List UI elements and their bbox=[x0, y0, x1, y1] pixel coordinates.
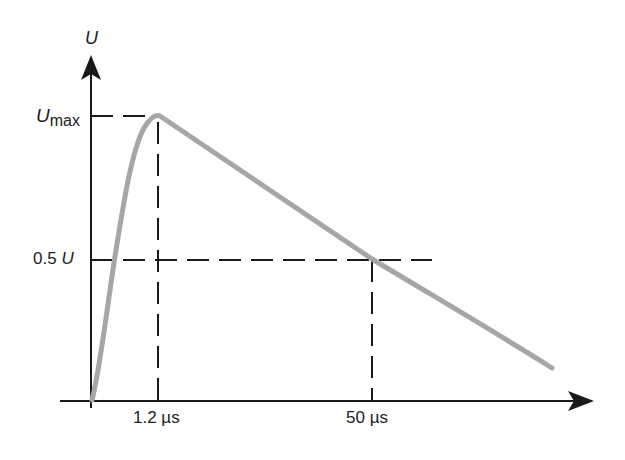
peak-time-label: 1.2 µs bbox=[133, 408, 180, 428]
half-value-label: 0.5 U bbox=[33, 249, 74, 269]
impulse-waveform-diagram: U Umax 0.5 U 1.2 µs 50 µs bbox=[0, 0, 625, 460]
half-value-u: U bbox=[61, 249, 73, 268]
half-value-number: 0.5 bbox=[33, 249, 57, 268]
y-axis-label: U bbox=[85, 28, 98, 49]
umax-label-sub: max bbox=[50, 112, 80, 129]
half-time-label: 50 µs bbox=[346, 408, 388, 428]
waveform-curve bbox=[92, 116, 552, 401]
umax-label-main: U bbox=[36, 105, 50, 126]
umax-label: Umax bbox=[36, 105, 80, 127]
diagram-canvas bbox=[0, 0, 625, 460]
